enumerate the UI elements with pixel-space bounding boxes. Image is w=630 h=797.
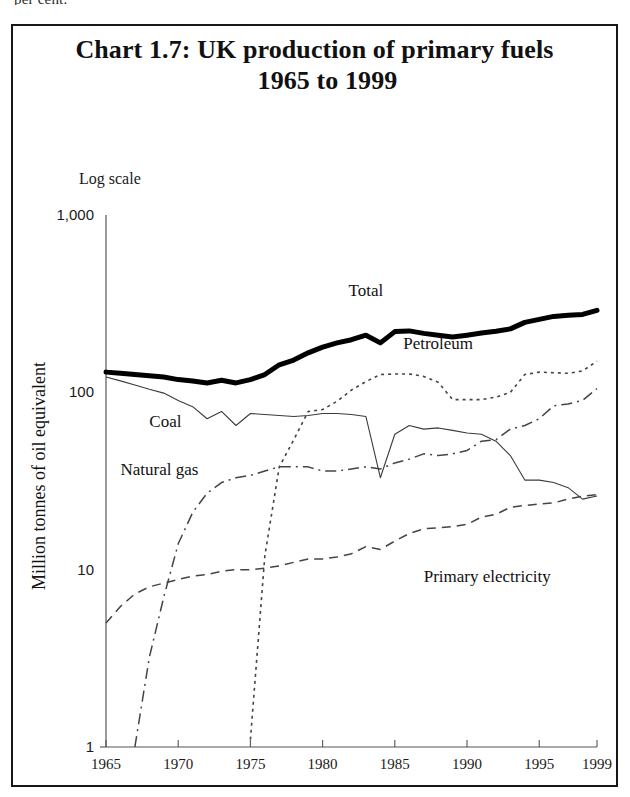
log-scale-note: Log scale	[79, 170, 141, 188]
x-tick-label: 1970	[163, 756, 193, 772]
series-annotations: TotalPetroleumCoalNatural gasPrimary ele…	[120, 281, 551, 586]
x-tick-label: 1985	[380, 756, 410, 772]
series-line-petroleum	[250, 361, 597, 740]
x-tick-label: 1995	[524, 756, 554, 772]
x-axis-ticks: 19651970197519801985199019951999	[91, 740, 612, 772]
series-label-natural-gas: Natural gas	[120, 460, 198, 479]
y-tick-label: 10	[77, 561, 94, 578]
series-label-coal: Coal	[149, 412, 181, 431]
y-axis-title: Million tonnes of oil equivalent	[29, 362, 49, 590]
x-tick-label: 1999	[582, 756, 612, 772]
series-label-total: Total	[349, 281, 384, 300]
page-root: per cent. Chart 1.7: UK production of pr…	[0, 0, 630, 797]
x-tick-label: 1990	[452, 756, 482, 772]
y-tick-label: 100	[69, 383, 94, 400]
y-tick-label: 1,000	[56, 206, 94, 223]
series-line-total	[106, 310, 597, 383]
y-tick-label: 1	[86, 738, 94, 755]
series-label-primary-electricity: Primary electricity	[424, 567, 551, 586]
x-tick-label: 1965	[91, 756, 121, 772]
cut-off-text-above-chart: per cent.	[14, 0, 67, 5]
series-line-primary-electricity	[106, 495, 597, 623]
x-tick-label: 1975	[235, 756, 265, 772]
series-label-petroleum: Petroleum	[403, 334, 473, 353]
y-axis-ticks: 1,000100101	[56, 206, 106, 755]
chart-card: Chart 1.7: UK production of primary fuel…	[11, 24, 618, 787]
line-chart-svg: Log scale Million tonnes of oil equivale…	[13, 26, 620, 789]
series-line-coal	[106, 377, 597, 499]
x-tick-label: 1980	[308, 756, 338, 772]
plot-area: Log scale Million tonnes of oil equivale…	[13, 26, 616, 785]
